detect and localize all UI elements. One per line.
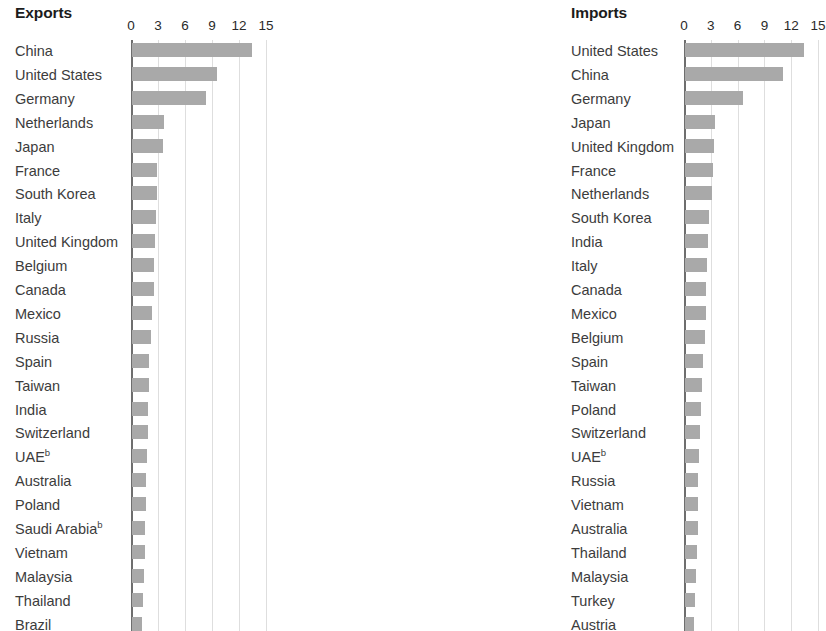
- imports-panel-title: Imports: [571, 4, 627, 22]
- category-label: Poland: [571, 403, 616, 417]
- category-label: Turkey: [571, 594, 615, 608]
- x-tick-label-3: 3: [707, 18, 715, 33]
- bar: [132, 521, 145, 535]
- category-label: Switzerland: [15, 426, 90, 440]
- bar: [685, 258, 707, 272]
- bar: [685, 521, 698, 535]
- category-label: India: [571, 235, 602, 249]
- bar: [132, 402, 148, 416]
- category-label: Taiwan: [571, 379, 616, 393]
- bar: [132, 354, 149, 368]
- bar: [132, 473, 146, 487]
- category-label: China: [15, 44, 53, 58]
- category-label: Australia: [15, 474, 71, 488]
- footnote-marker: b: [97, 519, 102, 530]
- bar: [685, 617, 694, 631]
- bar: [132, 210, 156, 224]
- category-label: Thailand: [571, 546, 627, 560]
- bar: [132, 282, 154, 296]
- category-label: Italy: [571, 259, 598, 273]
- category-label: Japan: [571, 116, 611, 130]
- x-tick-label-3: 3: [154, 18, 162, 33]
- bar: [132, 425, 148, 439]
- bar: [132, 139, 163, 153]
- bar: [685, 402, 701, 416]
- category-label: Poland: [15, 498, 60, 512]
- x-tick-label-12: 12: [231, 18, 246, 33]
- bar: [132, 234, 155, 248]
- category-label: United Kingdom: [15, 235, 118, 249]
- bar: [132, 91, 206, 105]
- category-label: Switzerland: [571, 426, 646, 440]
- bar: [132, 330, 151, 344]
- bar: [685, 210, 709, 224]
- bar: [685, 306, 706, 320]
- category-label: Russia: [571, 474, 615, 488]
- category-label: Germany: [571, 92, 631, 106]
- category-label: Mexico: [15, 307, 61, 321]
- category-label: Spain: [571, 355, 608, 369]
- exports-x-axis-ticks: 03691215: [131, 18, 266, 38]
- category-label: France: [15, 164, 60, 178]
- imports-plot-area: 03691215: [684, 40, 818, 631]
- category-label: Austria: [571, 618, 616, 631]
- category-label: Belgium: [15, 259, 67, 273]
- category-label: Spain: [15, 355, 52, 369]
- bar: [132, 67, 217, 81]
- imports-category-labels: United StatesChinaGermanyJapanUnited Kin…: [563, 40, 682, 631]
- category-label: Saudi Arabiab: [15, 522, 103, 536]
- category-label: Germany: [15, 92, 75, 106]
- exports-plot-area: 03691215: [131, 40, 266, 631]
- category-label: Japan: [15, 140, 55, 154]
- category-label: Netherlands: [15, 116, 93, 130]
- x-tick-label-15: 15: [810, 18, 825, 33]
- category-label: Italy: [15, 211, 42, 225]
- bar: [685, 545, 697, 559]
- bar: [685, 449, 699, 463]
- x-tick-label-0: 0: [127, 18, 135, 33]
- category-label: United States: [571, 44, 658, 58]
- bar: [685, 378, 702, 392]
- bar: [132, 617, 142, 631]
- imports-x-axis-ticks: 03691215: [684, 18, 818, 38]
- x-tick-label-0: 0: [680, 18, 688, 33]
- x-tick-label-9: 9: [208, 18, 216, 33]
- bar: [132, 43, 252, 57]
- bar: [685, 330, 705, 344]
- bar: [685, 115, 715, 129]
- bar: [132, 163, 157, 177]
- bar: [132, 115, 164, 129]
- bar: [132, 497, 146, 511]
- category-label: India: [15, 403, 46, 417]
- category-label: South Korea: [571, 211, 652, 225]
- gridline-15: [266, 40, 267, 631]
- bar: [685, 497, 698, 511]
- exports-panel: Exports ChinaUnited StatesGermanyNetherl…: [0, 0, 281, 631]
- bar: [685, 234, 708, 248]
- bar: [132, 545, 145, 559]
- x-tick-label-15: 15: [258, 18, 273, 33]
- bar: [685, 569, 696, 583]
- bar: [685, 163, 713, 177]
- category-label: Thailand: [15, 594, 71, 608]
- bar: [685, 473, 698, 487]
- category-label: Vietnam: [571, 498, 624, 512]
- bar: [132, 593, 143, 607]
- imports-panel: Imports United StatesChinaGermanyJapanUn…: [281, 0, 563, 631]
- category-label: UAEb: [15, 450, 50, 464]
- exports-panel-title: Exports: [15, 4, 72, 22]
- imports-bars: [684, 40, 818, 631]
- category-label: France: [571, 164, 616, 178]
- category-label: Australia: [571, 522, 627, 536]
- x-tick-label-9: 9: [761, 18, 769, 33]
- exports-category-labels: ChinaUnited StatesGermanyNetherlandsJapa…: [0, 40, 128, 631]
- bar: [132, 378, 149, 392]
- exports-bars: [131, 40, 266, 631]
- bar: [685, 354, 703, 368]
- category-label: United Kingdom: [571, 140, 674, 154]
- bar: [132, 306, 152, 320]
- gridline-15: [818, 40, 819, 631]
- bar: [132, 569, 144, 583]
- bar: [685, 139, 714, 153]
